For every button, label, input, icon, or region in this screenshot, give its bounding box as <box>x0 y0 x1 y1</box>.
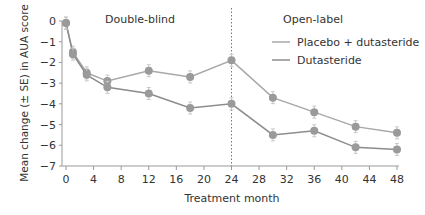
data-point <box>103 83 111 91</box>
legend: Placebo + dutasteride Dutasteride <box>272 36 420 67</box>
x-tick-label: 12 <box>142 173 156 186</box>
region-label-open-label: Open-label <box>283 13 343 26</box>
y-tick-label: 0 <box>49 15 56 28</box>
data-point <box>69 50 77 58</box>
x-tick-label: 44 <box>362 173 376 186</box>
x-tick-label: 4 <box>90 173 97 186</box>
data-point <box>393 129 401 137</box>
x-tick-label: 24 <box>225 173 239 186</box>
data-point <box>352 143 360 151</box>
data-point <box>228 100 236 108</box>
data-point <box>228 56 236 64</box>
legend-label-placebo: Placebo + dutasteride <box>297 36 420 49</box>
data-point <box>269 94 277 102</box>
data-point <box>393 145 401 153</box>
y-axis-label: Mean change (± SE) in AUA score <box>18 4 30 181</box>
data-point <box>310 108 318 116</box>
data-point <box>352 123 360 131</box>
y-tick-label: −2 <box>40 56 56 69</box>
y-tick-label: −6 <box>40 139 56 152</box>
data-point <box>145 67 153 75</box>
x-tick-label: 48 <box>390 173 404 186</box>
x-tick-label: 0 <box>63 173 70 186</box>
y-tick-label: −1 <box>40 36 56 49</box>
data-point <box>186 73 194 81</box>
y-tick-label: −5 <box>40 119 56 132</box>
y-tick-label: −4 <box>40 98 56 111</box>
x-tick-label: 36 <box>307 173 321 186</box>
legend-label-dutasteride: Dutasteride <box>297 54 362 67</box>
data-point <box>186 104 194 112</box>
line-chart: 0−1−2−3−4−5−6−704812162024283236404448 D… <box>0 0 425 215</box>
y-tick-label: −3 <box>40 77 56 90</box>
data-point <box>145 90 153 98</box>
axes: 0−1−2−3−4−5−6−704812162024283236404448 <box>40 8 404 186</box>
data-point <box>310 127 318 135</box>
x-axis-label: Treatment month <box>183 192 279 205</box>
x-tick-label: 40 <box>335 173 349 186</box>
x-tick-label: 32 <box>280 173 294 186</box>
data-point <box>269 131 277 139</box>
data-point <box>62 19 70 27</box>
x-tick-label: 8 <box>118 173 125 186</box>
data-point <box>83 71 91 79</box>
x-tick-label: 16 <box>169 173 183 186</box>
y-tick-label: −7 <box>40 160 56 173</box>
region-label-double-blind: Double-blind <box>105 13 175 26</box>
x-tick-label: 20 <box>197 173 211 186</box>
x-tick-label: 28 <box>252 173 266 186</box>
